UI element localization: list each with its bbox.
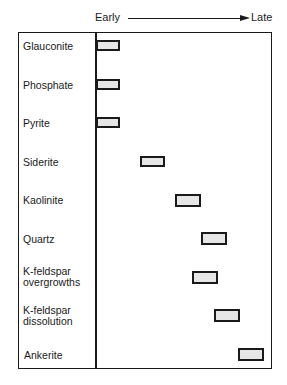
time-arrow-line [128, 18, 244, 19]
bar-kaolinite [175, 194, 201, 207]
bar-siderite [140, 156, 165, 167]
bar-quartz [201, 232, 227, 245]
bar-k-feldspar-overgrowths [192, 271, 218, 284]
row-label-k-feldspar-dissolution: K-feldspar dissolution [23, 305, 73, 327]
axis-end-label: Late [251, 11, 272, 23]
row-label-glauconite: Glauconite [23, 41, 73, 52]
arrow-right-icon [240, 15, 250, 21]
row-label-kaolinite: Kaolinite [23, 195, 63, 206]
bar-k-feldspar-dissolution [214, 309, 240, 322]
row-label-pyrite: Pyrite [23, 118, 50, 129]
row-label-phosphate: Phosphate [23, 80, 73, 91]
bar-glauconite [96, 40, 120, 51]
bar-pyrite [96, 117, 120, 128]
row-label-siderite: Siderite [23, 157, 59, 168]
bar-phosphate [96, 79, 120, 90]
bar-ankerite [238, 348, 264, 361]
row-label-k-feldspar-overgrowths: K-feldspar overgrowths [23, 266, 80, 288]
row-label-quartz: Quartz [23, 234, 55, 245]
axis-start-label: Early [95, 11, 120, 23]
row-label-ankerite: Ankerite [24, 350, 63, 361]
